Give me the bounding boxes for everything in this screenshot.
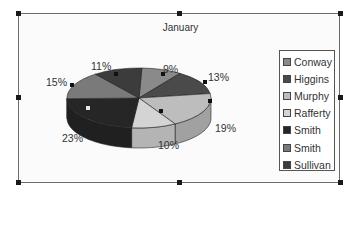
legend-label: Sullivan bbox=[294, 159, 331, 171]
legend-item[interactable]: Smith bbox=[280, 139, 334, 156]
data-point-marker[interactable] bbox=[203, 80, 207, 84]
legend-swatch-icon bbox=[283, 161, 291, 169]
legend-swatch-icon bbox=[283, 58, 291, 66]
legend-swatch-icon bbox=[283, 109, 291, 117]
legend-item[interactable]: Sullivan bbox=[280, 156, 334, 173]
legend-label: Conway bbox=[294, 56, 332, 68]
data-label-sullivan[interactable]: 11% bbox=[91, 60, 111, 72]
legend-item[interactable]: Conway bbox=[280, 53, 334, 70]
legend-label: Rafferty bbox=[294, 107, 331, 119]
legend-label: Murphy bbox=[294, 90, 329, 102]
data-point-marker[interactable] bbox=[159, 109, 163, 113]
legend-label: Smith bbox=[294, 142, 321, 154]
data-point-marker[interactable] bbox=[86, 106, 90, 110]
data-label-murphy[interactable]: 19% bbox=[215, 122, 236, 134]
legend-item[interactable]: Murphy bbox=[280, 87, 334, 104]
legend-item[interactable]: Higgins bbox=[280, 70, 334, 87]
legend-label: Higgins bbox=[294, 73, 329, 85]
legend-label: Smith bbox=[294, 124, 321, 136]
legend-swatch-icon bbox=[283, 144, 291, 152]
legend-item[interactable]: Rafferty bbox=[280, 105, 334, 122]
data-point-marker[interactable] bbox=[70, 83, 74, 87]
data-point-marker[interactable] bbox=[114, 72, 118, 76]
legend-swatch-icon bbox=[283, 75, 291, 83]
data-point-marker[interactable] bbox=[208, 99, 212, 103]
legend-swatch-icon bbox=[283, 92, 291, 100]
data-label-smith-1[interactable]: 23% bbox=[62, 132, 83, 144]
data-label-higgins[interactable]: 13% bbox=[208, 71, 229, 83]
data-label-smith-2[interactable]: 15% bbox=[46, 76, 67, 88]
legend-item[interactable]: Smith bbox=[280, 122, 334, 139]
legend-swatch-icon bbox=[283, 126, 291, 134]
chart-legend[interactable]: ConwayHigginsMurphyRaffertySmithSmithSul… bbox=[279, 50, 335, 171]
data-label-conway[interactable]: 9% bbox=[163, 63, 178, 75]
data-label-rafferty[interactable]: 10% bbox=[158, 139, 179, 151]
